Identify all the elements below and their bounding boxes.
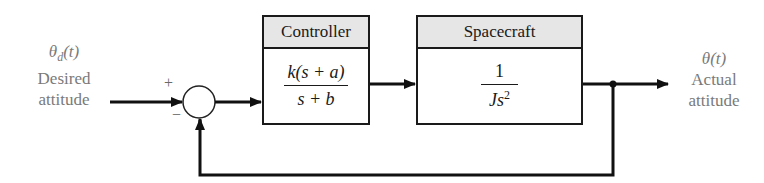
- minus-sign: −: [172, 106, 181, 124]
- summing-junction: [183, 86, 215, 118]
- controller-title: Controller: [264, 17, 368, 49]
- controller-transfer-function: k(s + a) s + b: [284, 62, 347, 111]
- output-desc-2: attitude: [672, 90, 756, 111]
- plus-sign: +: [164, 74, 173, 92]
- spacecraft-title: Spacecraft: [418, 17, 581, 49]
- output-signal: θ(t): [672, 48, 756, 69]
- input-label: θd(t) Desired attitude: [22, 41, 106, 110]
- plant-transfer-function: 1 Js2: [481, 61, 518, 112]
- input-desc-2: attitude: [22, 89, 106, 110]
- controller-block: Controller k(s + a) s + b: [262, 15, 370, 125]
- input-signal: θd(t): [22, 41, 106, 68]
- diagram-wires: [0, 0, 764, 183]
- output-desc-1: Actual: [672, 69, 756, 90]
- spacecraft-block: Spacecraft 1 Js2: [416, 15, 583, 125]
- output-label: θ(t) Actual attitude: [672, 48, 756, 111]
- input-desc-1: Desired: [22, 68, 106, 89]
